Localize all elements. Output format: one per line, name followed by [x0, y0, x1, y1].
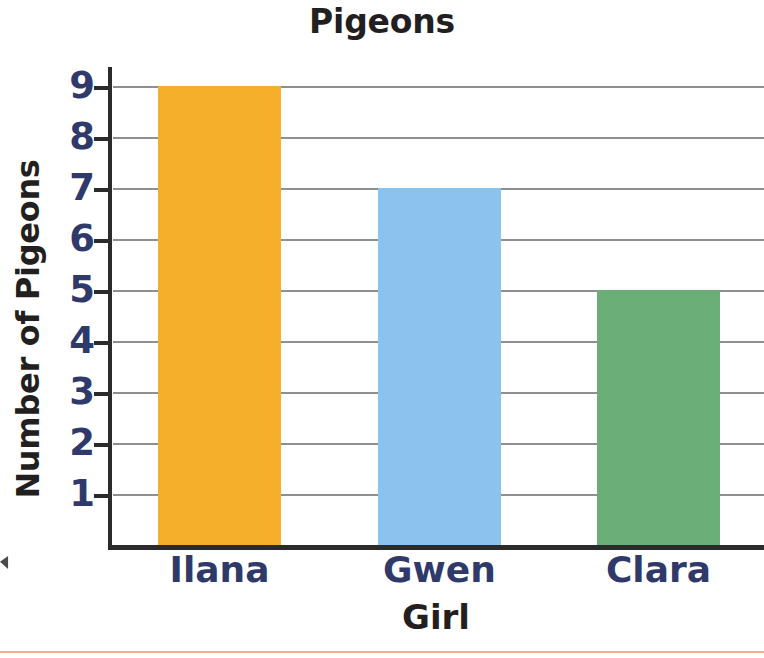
bar-clara	[597, 290, 720, 545]
page-bottom-rule	[0, 651, 764, 653]
x-tick-label: Gwen	[340, 551, 540, 589]
y-tick-label: 2	[35, 424, 95, 461]
y-tick-label: 6	[35, 220, 95, 257]
chart-title: Pigeons	[0, 2, 764, 42]
y-tick-label: 5	[35, 271, 95, 308]
y-tick-label: 1	[35, 475, 95, 512]
x-tick-label: Ilana	[120, 551, 320, 589]
x-axis-title: Girl	[108, 600, 764, 636]
y-tick-label: 8	[35, 118, 95, 155]
x-tick-label: Clara	[559, 551, 759, 589]
bar-chart: Pigeons Number of Pigeons 123456789 Ilan…	[0, 0, 764, 658]
y-tick-label: 9	[35, 67, 95, 104]
y-tick-label: 7	[35, 169, 95, 206]
y-tick-label: 4	[35, 322, 95, 359]
y-tick-label: 3	[35, 373, 95, 410]
left-arrow-icon	[0, 556, 13, 569]
y-axis-line	[108, 67, 112, 546]
plot-area	[108, 68, 764, 545]
bar-ilana	[158, 86, 281, 545]
bar-gwen	[378, 188, 501, 545]
